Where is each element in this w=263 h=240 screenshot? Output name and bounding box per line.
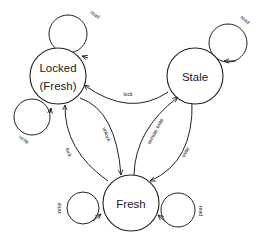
edge-stale-read-loop: read [209, 14, 251, 62]
edge-label-fresh-read: read [198, 206, 204, 216]
node-stale: Stale [167, 48, 223, 104]
edge-label-stale-read: read [239, 14, 251, 25]
edge-fresh-read-loop: read [158, 193, 204, 227]
node-locked: Locked (Fresh) [30, 48, 86, 104]
edge-stale-to-fresh: write [150, 101, 192, 181]
edge-fresh-to-locked: lock [64, 105, 108, 181]
node-fresh-label: Fresh [116, 198, 145, 210]
edge-label-locked-write: write [18, 134, 31, 145]
edge-fresh-to-stale: remote write [134, 97, 178, 175]
node-stale-label: Stale [182, 71, 208, 83]
edge-label-stale-to-locked: lock [123, 91, 133, 97]
edge-label-locked-read: read [89, 9, 101, 20]
node-locked-label-line2: (Fresh) [39, 80, 76, 92]
edge-label-fresh-write: write [56, 202, 62, 213]
state-diagram: read write read write read lock unlock l… [0, 0, 263, 240]
edge-stale-to-locked: lock [84, 85, 168, 103]
node-locked-label-line1: Locked [39, 62, 76, 74]
edge-label-stale-to-fresh: write [180, 146, 190, 159]
edge-locked-to-fresh: unlock [80, 98, 121, 175]
edge-fresh-write-loop: write [56, 192, 101, 224]
edge-locked-write-loop: write [14, 99, 51, 145]
edge-label-fresh-to-locked: lock [64, 147, 73, 158]
edge-label-fresh-to-stale: remote write [146, 117, 165, 145]
node-fresh: Fresh [103, 175, 159, 231]
